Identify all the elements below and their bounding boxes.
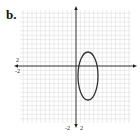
x-tick-label-neg2: -2 (65, 125, 70, 131)
x-axis-right-arrow-icon (133, 64, 137, 67)
ellipse-curve (78, 52, 98, 100)
y-axis (74, 6, 77, 128)
y-tick-label-neg2: -2 (15, 68, 20, 74)
y-axis-top-arrow-icon (74, 6, 77, 10)
x-axis (14, 64, 137, 67)
x-tick-label-2: 2 (80, 125, 83, 131)
y-axis-bottom-arrow-icon (74, 124, 77, 128)
y-tick-label-2: 2 (16, 57, 19, 63)
grid-lines (20, 10, 131, 123)
graph-plot: 2 -2 -2 2 (0, 0, 140, 137)
